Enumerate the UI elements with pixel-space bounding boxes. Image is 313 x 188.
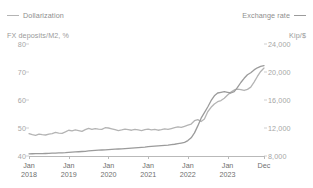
x-axis-tick-mark bbox=[188, 156, 189, 159]
legend-item-exchange-rate[interactable]: Exchange rate bbox=[242, 11, 306, 20]
y-axis-left-tick-label: 40 bbox=[18, 152, 26, 161]
y-axis-left-tick-mark bbox=[26, 100, 29, 101]
series-lines bbox=[29, 44, 264, 156]
x-axis-line bbox=[29, 156, 264, 157]
x-axis-tick-mark bbox=[228, 156, 229, 159]
x-axis-tick-label: Jan2023 bbox=[220, 161, 236, 179]
x-axis-tick-mark bbox=[264, 156, 265, 159]
y-axis-right-tick-label: 8,000 bbox=[268, 152, 287, 161]
x-axis-tick-label: Jan2018 bbox=[21, 161, 37, 179]
legend-label-dollarization: Dollarization bbox=[23, 11, 64, 20]
x-axis-tick-label: Jan2020 bbox=[100, 161, 116, 179]
plot-area: 807060504024,00020,00016,00012,0008,000J… bbox=[29, 44, 264, 156]
x-axis-tick-label: Jan2021 bbox=[140, 161, 156, 179]
chart-legend: Dollarization Exchange rate bbox=[0, 11, 313, 25]
x-axis-tick-mark bbox=[69, 156, 70, 159]
x-axis-tick-label: Jan2019 bbox=[61, 161, 77, 179]
y-axis-right-tick-mark bbox=[264, 128, 267, 129]
series-line-dollarization bbox=[29, 68, 264, 135]
x-axis-tick-mark bbox=[148, 156, 149, 159]
y-axis-right-tick-mark bbox=[264, 44, 267, 45]
y-axis-right-tick-label: 24,000 bbox=[268, 40, 291, 49]
y-axis-right-tick-mark bbox=[264, 100, 267, 101]
y-axis-right-tick-label: 12,000 bbox=[268, 124, 291, 133]
y-axis-left-tick-mark bbox=[26, 44, 29, 45]
chart-figure: Dollarization Exchange rate FX deposits/… bbox=[0, 0, 313, 188]
series-line-exchange-rate bbox=[29, 66, 264, 154]
y-axis-left-tick-label: 50 bbox=[18, 124, 26, 133]
x-axis-tick-label: Jan2022 bbox=[180, 161, 196, 179]
x-axis-tick-mark bbox=[29, 156, 30, 159]
line-swatch-icon bbox=[7, 15, 19, 16]
x-axis-tick-mark bbox=[108, 156, 109, 159]
legend-label-exchange-rate: Exchange rate bbox=[242, 11, 290, 20]
y-axis-left-tick-mark bbox=[26, 72, 29, 73]
legend-item-dollarization[interactable]: Dollarization bbox=[7, 11, 64, 20]
y-axis-left-tick-label: 70 bbox=[18, 68, 26, 77]
y-axis-right-tick-mark bbox=[264, 72, 267, 73]
y-axis-left-tick-label: 60 bbox=[18, 96, 26, 105]
line-swatch-icon bbox=[294, 15, 306, 16]
x-axis-tick-label: Dec bbox=[258, 161, 271, 170]
y-axis-right-tick-label: 16,000 bbox=[268, 96, 291, 105]
y-axis-left-tick-label: 80 bbox=[18, 40, 26, 49]
y-axis-left-tick-mark bbox=[26, 128, 29, 129]
right-axis-title: Kip/$ bbox=[289, 31, 306, 40]
y-axis-right-tick-label: 20,000 bbox=[268, 68, 291, 77]
left-axis-title: FX deposits/M2, % bbox=[7, 31, 69, 40]
